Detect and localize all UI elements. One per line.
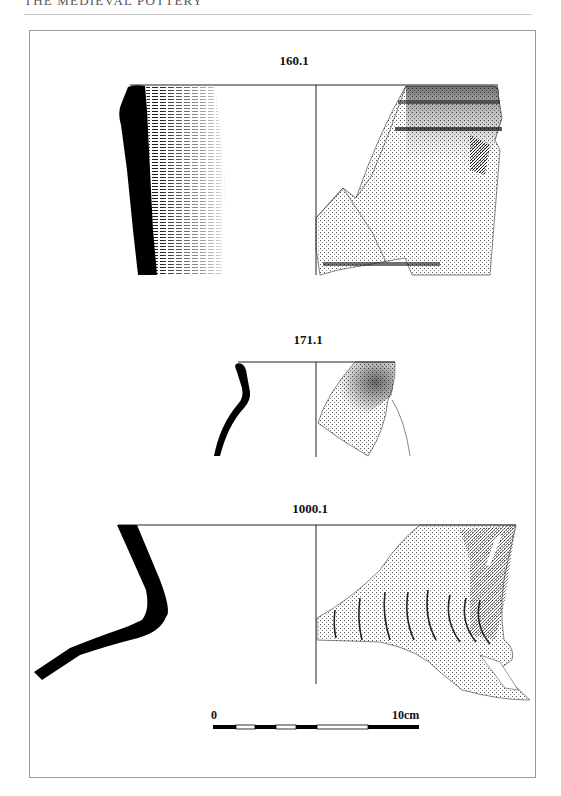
scale-bar [213,725,419,729]
scale-end-label: 10cm [392,708,419,723]
scale-start-label: 0 [211,708,217,723]
vessel-160-1-drawing [119,85,502,275]
pottery-drawings [0,0,561,796]
vessel-1000-1-drawing [34,525,530,700]
vessel-171-1-drawing [214,362,410,457]
